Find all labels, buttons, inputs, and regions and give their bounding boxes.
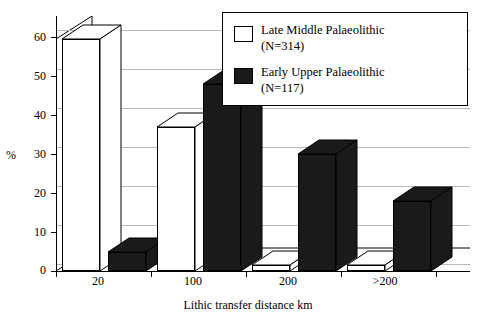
legend: Late Middle Palaeolithic (N=314) Early U… (222, 12, 468, 106)
x-tick-label-100: 100 (173, 274, 213, 289)
bar-lmp-200-face (252, 265, 290, 271)
legend-item-early-upper-palaeolithic: Early Upper Palaeolithic (N=117) (233, 64, 433, 96)
bar-lmp-over200 (347, 265, 385, 271)
legend-label-early-upper-palaeolithic: Early Upper Palaeolithic (261, 65, 385, 79)
y-axis-title: % (6, 148, 16, 163)
bar-lmp-20 (62, 39, 100, 271)
legend-sublabel-early-upper-palaeolithic: (N=117) (261, 80, 461, 96)
y-axis-line (56, 16, 57, 272)
legend-sublabel-late-middle-palaeolithic: (N=314) (261, 38, 461, 54)
x-tick-label-20: 20 (78, 274, 118, 289)
bar-eup-over200 (393, 201, 431, 271)
bar-eup-200-face (298, 154, 336, 271)
bar-eup-100-face (203, 84, 241, 271)
y-tickmark-60 (51, 37, 56, 38)
chart-container: % 0 10 20 30 40 50 60 (0, 0, 496, 324)
x-axis-title: Lithic transfer distance km (0, 298, 496, 313)
y-tick-label-0: 0 (20, 263, 46, 278)
bar-eup-20-face (108, 252, 146, 271)
y-tick-label-10: 10 (20, 225, 46, 240)
bar-lmp-200 (252, 265, 290, 271)
bar-lmp-100 (157, 127, 195, 271)
y-tickmark-20 (51, 193, 56, 194)
bar-lmp-20-face (62, 39, 100, 271)
legend-item-late-middle-palaeolithic: Late Middle Palaeolithic (N=314) (233, 22, 433, 54)
bar-lmp-100-face (157, 127, 195, 271)
y-tickmark-50 (51, 76, 56, 77)
y-tickmark-10 (51, 232, 56, 233)
legend-label-late-middle-palaeolithic: Late Middle Palaeolithic (261, 23, 385, 37)
bar-lmp-over200-face (347, 265, 385, 271)
x-tickmark-0 (56, 272, 57, 277)
bar-eup-20 (108, 252, 146, 271)
y-tick-label-40: 40 (20, 108, 46, 123)
bar-eup-200 (298, 154, 336, 271)
y-tick-label-20: 20 (20, 186, 46, 201)
y-tick-label-30: 30 (20, 147, 46, 162)
y-tick-label-50: 50 (20, 69, 46, 84)
x-tick-label-over200: >200 (363, 274, 407, 289)
bar-eup-100 (203, 84, 241, 271)
y-tick-label-60: 60 (20, 30, 46, 45)
y-tickmark-40 (51, 115, 56, 116)
y-tickmark-30 (51, 154, 56, 155)
bar-eup-over200-face (393, 201, 431, 271)
x-tick-label-200: 200 (268, 274, 308, 289)
